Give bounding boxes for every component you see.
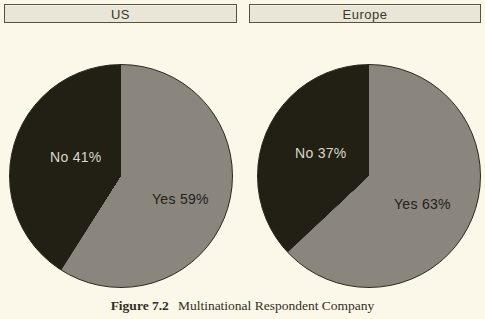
pie-europe-no-slice-label: No 37% <box>295 145 347 161</box>
pie-us-yes-slice-label: Yes 59% <box>152 191 209 207</box>
pie-europe-yes-slice-label: Yes 63% <box>394 196 451 212</box>
figure-page: US Europe No 41% Yes 59% No 37% Yes 63% … <box>0 0 485 319</box>
panel-header-us: US <box>4 4 237 23</box>
pie-chart-europe: No 37% Yes 63% <box>257 64 481 288</box>
panel-header-europe: Europe <box>249 4 481 23</box>
pie-us-no-slice-label: No 41% <box>50 149 102 165</box>
figure-caption-text: Multinational Respondent Company <box>178 298 374 313</box>
figure-caption: Figure 7.2Multinational Respondent Compa… <box>0 298 485 314</box>
figure-caption-number: Figure 7.2 <box>111 298 169 313</box>
pie-chart-us: No 41% Yes 59% <box>9 64 233 288</box>
